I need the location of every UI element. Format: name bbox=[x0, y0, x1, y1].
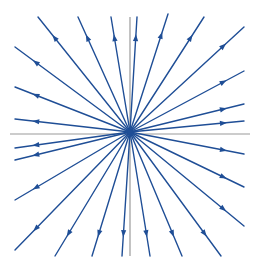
arrow-icon bbox=[219, 107, 226, 112]
arrow-icon bbox=[143, 230, 148, 237]
arrow-icon bbox=[32, 152, 39, 157]
arrow-icon bbox=[112, 34, 117, 41]
radial-field-diagram bbox=[0, 0, 259, 266]
arrow-icon bbox=[187, 35, 193, 42]
field-line bbox=[111, 17, 130, 132]
arrow-icon bbox=[219, 80, 226, 86]
arrow-icon bbox=[158, 32, 163, 39]
arrow-icon bbox=[33, 184, 40, 190]
field-line bbox=[130, 132, 221, 256]
arrow-icon bbox=[97, 230, 102, 237]
field-lines-canvas bbox=[0, 0, 259, 266]
arrow-icon bbox=[67, 229, 73, 236]
source-point bbox=[127, 129, 133, 135]
field-line bbox=[55, 132, 130, 256]
arrow-icon bbox=[32, 94, 39, 99]
field-line bbox=[130, 132, 182, 256]
arrow-icon bbox=[121, 230, 126, 237]
field-line bbox=[121, 132, 130, 256]
field-line bbox=[130, 132, 150, 256]
arrow-icon bbox=[133, 34, 138, 41]
arrow-icon bbox=[169, 229, 174, 236]
arrow-icon bbox=[32, 142, 39, 147]
field-line bbox=[15, 132, 130, 250]
arrow-icon bbox=[86, 35, 91, 42]
field-line bbox=[130, 17, 138, 132]
field-line bbox=[130, 132, 244, 154]
field-line bbox=[130, 104, 244, 132]
arrow-icon bbox=[219, 173, 226, 178]
